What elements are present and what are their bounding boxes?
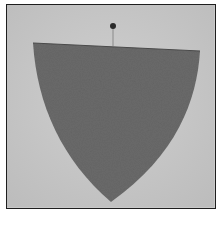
photo-content — [7, 5, 214, 207]
figure-caption — [8, 219, 218, 230]
photo-frame — [6, 4, 216, 209]
pin-head-icon — [110, 23, 116, 29]
